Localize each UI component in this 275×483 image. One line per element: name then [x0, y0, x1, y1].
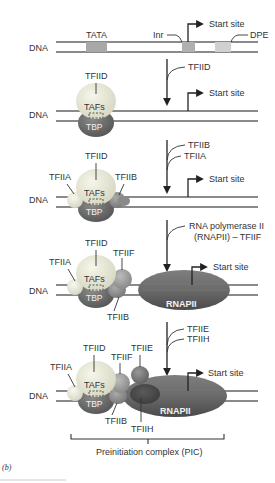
start-site-label: Start site: [209, 174, 245, 184]
tfiib-label: TFIIB: [105, 416, 127, 426]
factor-join-line: [167, 226, 185, 240]
tbp-label: TBP: [86, 399, 103, 409]
step-1-factor: TFIID: [188, 62, 211, 72]
tfiia-leader-line: [68, 374, 75, 387]
step-1-arrow: TFIID: [167, 59, 211, 102]
stage-2-tfiid-bound: DNA TAFs TBP TFIID Start site: [29, 71, 258, 137]
step-3-arrow: RNA polymerase II (RNAPII) – TFIIF: [167, 220, 264, 268]
pic-bracket: Preinitiation complex (PIC): [71, 434, 224, 457]
tata-label: TATA: [86, 30, 107, 40]
tata-box: [86, 42, 107, 52]
tfiia-leader-line: [67, 184, 74, 194]
step-3-line-2: (RNAPII) – TFIIF: [194, 232, 262, 242]
factor-join-line: [167, 339, 184, 352]
start-site-label: Start site: [209, 88, 245, 98]
tfiib-label: TFIIB: [115, 172, 137, 182]
tfiia-label: TFIIA: [50, 362, 72, 372]
tafs-label: TAFs: [84, 188, 105, 198]
bracket-line: [71, 434, 224, 439]
figure-panel-label: (b): [2, 463, 12, 472]
dna-label: DNA: [29, 391, 48, 401]
inr-box: [182, 42, 195, 52]
tfiif-label: TFIIF: [113, 248, 135, 258]
tfiib-tail-shape: [118, 196, 130, 206]
tfiia-leader-line: [68, 269, 75, 281]
tfiie-label: TFIIE: [131, 343, 153, 353]
step-3-line-1: RNA polymerase II: [189, 221, 264, 231]
start-site-arrow-icon: [188, 179, 200, 197]
tfiib-leader-line: [119, 184, 124, 195]
pic-assembly-diagram: DNA TATA Inr DPE Start site TFIID DNA TA…: [0, 0, 275, 483]
factor-join-line: [167, 145, 185, 160]
stage-1-promoter: DNA TATA Inr DPE Start site: [29, 19, 269, 53]
dpe-label: DPE: [250, 30, 269, 40]
tfiid-label: TFIID: [85, 151, 108, 161]
step-2-factor-1: TFIIB: [188, 140, 210, 150]
tfiih-label: TFIIH: [131, 424, 154, 434]
tbp-label: TBP: [86, 207, 103, 217]
start-site-arrow-icon: [188, 24, 200, 42]
tfiia-label: TFIIA: [49, 257, 71, 267]
tafs-label: TAFs: [84, 380, 105, 390]
start-site-label: Start site: [213, 262, 249, 272]
stage-5-preinitiation-complex: DNA TAFs TBP RNAPII TFIID TFIIA TFIIF TF…: [29, 343, 258, 434]
dna-label: DNA: [29, 110, 48, 120]
tfiif-label: TFIIF: [111, 352, 133, 362]
tfiia-label: TFIIA: [49, 172, 71, 182]
tfiid-label: TFIID: [83, 343, 106, 353]
stage-4-rnapii-tfiif-bound: DNA TAFs TBP RNAPII TFIID TFIIA TFIIF TF…: [29, 238, 258, 322]
tfiih-shape: [130, 384, 160, 404]
inr-label: Inr: [153, 30, 164, 40]
step-4-arrow: TFIIE TFIIH: [167, 322, 210, 372]
tfiib-leader-line: [114, 297, 119, 311]
start-site-label: Start site: [209, 19, 245, 29]
stage-3-tfiia-tfiib-bound: DNA TAFs TBP TFIID TFIIA TFIIB Start sit…: [29, 151, 258, 222]
dpe-box: [215, 42, 231, 52]
tbp-label: TBP: [86, 122, 103, 132]
tbp-label: TBP: [86, 293, 103, 303]
pic-label: Preinitiation complex (PIC): [96, 447, 203, 457]
dna-label: DNA: [29, 195, 48, 205]
start-site-arrow-icon: [188, 93, 200, 111]
factor-join-line: [167, 156, 181, 170]
tfiid-label: TFIID: [85, 71, 108, 81]
factor-join-line: [167, 329, 184, 345]
dna-label: DNA: [29, 286, 48, 296]
start-site-label: Start site: [208, 368, 244, 378]
step-2-factor-2: TFIIA: [184, 151, 206, 161]
tfiid-shape: [76, 361, 116, 397]
tfiid-label: TFIID: [85, 238, 108, 248]
step-4-factor-2: TFIIH: [187, 334, 210, 344]
rnapii-label: RNAPII: [160, 406, 191, 416]
factor-join-line: [167, 67, 185, 80]
tafs-label: TAFs: [84, 274, 105, 284]
dna-label: DNA: [29, 43, 48, 53]
tfiib-label: TFIIB: [107, 312, 129, 322]
tfiie-shape: [131, 366, 149, 384]
tafs-label: TAFs: [84, 102, 105, 112]
rnapii-label: RNAPII: [166, 299, 197, 309]
step-4-factor-1: TFIIE: [187, 324, 209, 334]
